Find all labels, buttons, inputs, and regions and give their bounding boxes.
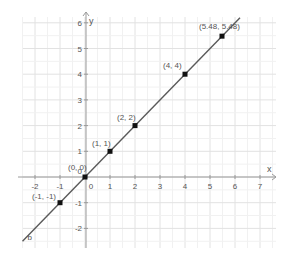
point-label: (1, 1) xyxy=(92,139,111,148)
y-tick-label: 3 xyxy=(78,96,83,105)
point-label: (5.48, 5.48) xyxy=(199,22,240,31)
point-label: (-1, -1) xyxy=(32,192,56,201)
x-tick-label: -2 xyxy=(31,182,39,191)
x-tick-label: 6 xyxy=(233,182,238,191)
point-label: (4, 4) xyxy=(163,61,182,70)
y-tick-label: 4 xyxy=(78,70,83,79)
graph-canvas: xy -2-101234567-2-10123456 b (-1, -1)(0,… xyxy=(0,0,297,253)
line-b[interactable]: b xyxy=(23,18,241,242)
x-tick-label: 4 xyxy=(183,182,188,191)
data-point[interactable] xyxy=(220,34,225,39)
grid-lines xyxy=(23,17,277,248)
x-tick-label: 7 xyxy=(258,182,263,191)
x-tick-label: -1 xyxy=(56,182,64,191)
line-y-equals-x[interactable] xyxy=(23,18,241,242)
x-tick-label: 5 xyxy=(208,182,213,191)
x-tick-label: 0 xyxy=(89,182,94,191)
data-point[interactable] xyxy=(58,200,63,205)
y-tick-label: 6 xyxy=(78,19,83,28)
point-label: (2, 2) xyxy=(117,113,136,122)
x-axis-label: x xyxy=(267,164,272,174)
data-point[interactable] xyxy=(183,72,188,77)
y-tick-label: 5 xyxy=(78,45,83,54)
data-point[interactable] xyxy=(133,123,138,128)
y-tick-label: -2 xyxy=(75,224,83,233)
y-axis-label: y xyxy=(89,16,94,26)
data-point[interactable] xyxy=(83,175,88,180)
x-tick-label: 1 xyxy=(108,182,113,191)
x-tick-label: 2 xyxy=(133,182,138,191)
data-point[interactable] xyxy=(108,149,113,154)
line-name-label: b xyxy=(28,233,33,242)
y-tick-label: 2 xyxy=(78,122,83,131)
point-label: (0, 0) xyxy=(68,163,87,172)
y-tick-label: 1 xyxy=(78,147,83,156)
x-tick-label: 3 xyxy=(158,182,163,191)
y-tick-label: -1 xyxy=(75,199,83,208)
